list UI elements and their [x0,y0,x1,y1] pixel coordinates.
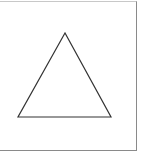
diagram-canvas [0,0,143,155]
triangle-shape [18,33,111,117]
